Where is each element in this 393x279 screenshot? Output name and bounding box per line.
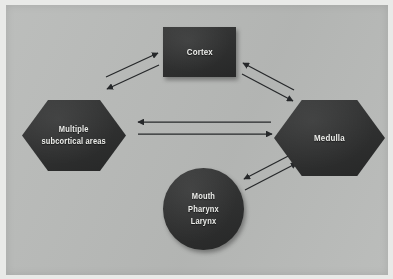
diagram-figure: Cortex Multiple subcortical areas Medull… (0, 0, 393, 279)
node-mouth-pharynx-larynx-label: Mouth Pharynx Larynx (188, 190, 219, 229)
node-medulla-label: Medulla (314, 132, 345, 144)
node-cortex: Cortex (163, 27, 236, 77)
node-mouth-pharynx-larynx: Mouth Pharynx Larynx (163, 168, 244, 250)
node-subcortical-areas-label: Multiple subcortical areas (42, 124, 107, 147)
node-cortex-label: Cortex (186, 46, 212, 58)
